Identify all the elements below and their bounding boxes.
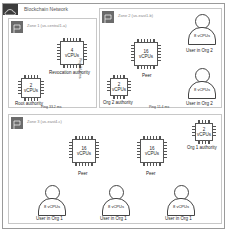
blockchain-network-container: Blockchain Network Zone 1 (us-central1-a… — [2, 3, 225, 229]
zone-1-title: Zone 1 (us-central1-a) — [27, 23, 67, 28]
ping-z2-z3: Ping 11.4 ms — [149, 105, 169, 109]
user-org2-2-label: User in Org 2 — [186, 101, 213, 106]
org2-authority-label: Org 2 authority — [103, 100, 133, 105]
user-org1-1-label: User in Org 1 — [36, 216, 63, 221]
zone-3: Zone 3 (us-east4-c) 16vCPUs Peer 16vCPUs… — [8, 114, 222, 224]
flag-icon — [11, 21, 23, 33]
root-authority-label: Root authority — [15, 101, 43, 106]
user-cpu: 8 vCPUs — [102, 204, 130, 209]
user-org2-1-label: User in Org 2 — [186, 48, 213, 53]
zone-2: Zone 2 (us-east1-b) 16vCPUs Peer 2vCPUs … — [99, 8, 222, 108]
flag-icon — [102, 11, 114, 23]
user-org1-3: 8 vCPUs — [167, 185, 195, 217]
user-cpu: 8 vCPUs — [188, 87, 216, 92]
user-org1-3-label: User in Org 1 — [165, 216, 192, 221]
cpu-unit: vCPUs — [197, 132, 211, 137]
cpu-unit: vCPUs — [139, 54, 153, 59]
peer-1-label: Peer — [78, 171, 88, 176]
zone-3-title: Zone 3 (us-east4-c) — [27, 119, 62, 124]
user-org2-2: 8 vCPUs — [188, 68, 216, 100]
cpu-unit: vCPUs — [77, 151, 91, 156]
cloud-icon — [3, 4, 18, 15]
zone-1: Zone 1 (us-central1-a) 4vCPUs Revocation… — [8, 18, 97, 108]
cpu-unit: vCPUs — [145, 151, 159, 156]
cpu-unit: vCPUs — [112, 87, 126, 92]
zone-2-title: Zone 2 (us-east1-b) — [118, 13, 153, 18]
peer-chip-2: 16vCPUs — [140, 139, 164, 163]
user-org1-2: 8 vCPUs — [102, 185, 130, 217]
user-cpu: 8 vCPUs — [167, 204, 195, 209]
root-authority-chip: 2vCPUs — [21, 78, 41, 98]
ping-z1-z2: Ping 34.3 ms — [78, 58, 82, 78]
peer-chip: 16vCPUs — [134, 42, 158, 66]
user-org2-1: 8 vCPUs — [188, 14, 216, 46]
cpu-unit: vCPUs — [65, 53, 79, 58]
flag-icon — [11, 117, 23, 129]
peer-2-label: Peer — [146, 171, 156, 176]
ping-z1-z3: Ping 33.2 ms — [41, 105, 61, 109]
user-org1-1: 8 vCPUs — [38, 185, 66, 217]
org1-authority-label: Org 1 authority — [187, 145, 217, 150]
peer-chip-1: 16vCPUs — [72, 139, 96, 163]
user-cpu: 8 vCPUs — [188, 33, 216, 38]
org1-authority-chip: 2vCPUs — [195, 123, 213, 141]
cpu-unit: vCPUs — [24, 88, 38, 93]
revocation-authority-label: Revocation authority — [49, 70, 90, 75]
peer-label: Peer — [142, 73, 152, 78]
org2-authority-chip: 2vCPUs — [110, 78, 128, 96]
network-title: Blockchain Network — [24, 6, 68, 12]
user-cpu: 8 vCPUs — [38, 204, 66, 209]
user-org1-2-label: User in Org 1 — [100, 216, 127, 221]
